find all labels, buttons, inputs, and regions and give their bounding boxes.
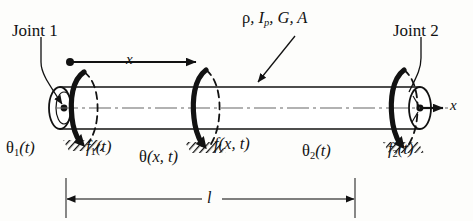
theta-1-greek: θ <box>6 138 14 157</box>
symbol-area: A <box>297 8 307 27</box>
label-f-1: f1(t) <box>86 139 111 157</box>
dimension-label-gap <box>202 190 222 208</box>
label-theta-field: θ(x, t) <box>139 149 178 166</box>
label-x-coordinate: x <box>126 52 133 67</box>
leader-joint2 <box>409 37 421 92</box>
symbol-rho: ρ <box>242 8 250 27</box>
label-f-2: f2(t) <box>388 141 413 159</box>
leader-properties <box>258 36 295 82</box>
label-joint-2: Joint 2 <box>393 22 439 39</box>
f-field-argument: (x, t) <box>219 134 250 153</box>
theta-1-argument: (t) <box>19 138 35 157</box>
label-x-axis: x <box>450 98 457 113</box>
theta-2-argument: (t) <box>315 141 331 160</box>
f-2-argument: (t) <box>398 139 414 158</box>
f-1-argument: (t) <box>96 137 112 156</box>
label-theta-2: θ2(t) <box>302 143 331 161</box>
theta-field-greek: θ <box>139 147 147 166</box>
theta-field-argument: (x, t) <box>147 147 178 166</box>
symbol-shear-modulus: G <box>277 8 289 27</box>
label-theta-1: θ1(t) <box>6 140 35 158</box>
label-material-properties: ρ, Ip, G, A <box>242 10 307 28</box>
label-f-field: f(x, t) <box>214 136 250 153</box>
torsional-shaft-figure: Joint 1 Joint 2 ρ, Ip, G, A x x θ1(t) f1… <box>0 0 473 221</box>
shaft-body <box>49 87 448 129</box>
label-joint-1: Joint 1 <box>12 22 58 39</box>
label-length: l <box>207 190 211 206</box>
theta-2-greek: θ <box>302 141 310 160</box>
